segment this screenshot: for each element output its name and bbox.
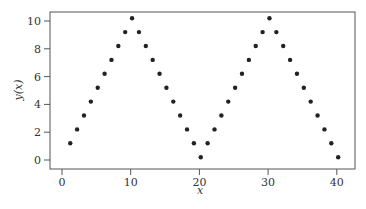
y-axis-ticks: 0246810 [27, 15, 50, 167]
x-tick-label: 0 [59, 176, 66, 189]
data-point [226, 99, 230, 103]
data-point [247, 58, 251, 62]
data-point [281, 44, 285, 48]
data-point [288, 58, 292, 62]
x-tick-label: 10 [124, 176, 138, 189]
data-point [137, 30, 141, 34]
data-point [315, 113, 319, 117]
data-point [212, 127, 216, 131]
scatter-chart: 0246810 010203040 x y(x) [0, 0, 366, 209]
data-point [274, 30, 278, 34]
plot-frame [50, 12, 355, 169]
y-tick-label: 6 [34, 71, 41, 84]
data-point [199, 155, 203, 159]
data-point [295, 72, 299, 76]
data-point [89, 99, 93, 103]
data-point [192, 141, 196, 145]
data-point [150, 58, 154, 62]
data-point [267, 16, 271, 20]
data-point [109, 58, 113, 62]
y-axis-label: y(x) [12, 79, 25, 101]
data-point [240, 72, 244, 76]
data-point [116, 44, 120, 48]
x-tick-label: 40 [330, 176, 344, 189]
data-point [68, 141, 72, 145]
data-point [157, 72, 161, 76]
data-point [329, 141, 333, 145]
x-axis-label: x [197, 184, 204, 197]
data-point [123, 30, 127, 34]
data-point [171, 99, 175, 103]
data-point [254, 44, 258, 48]
y-tick-label: 0 [34, 154, 41, 167]
data-point [96, 86, 100, 90]
y-tick-label: 4 [34, 98, 41, 111]
data-points [68, 16, 340, 159]
y-tick-label: 10 [27, 15, 41, 28]
data-point [308, 99, 312, 103]
data-point [302, 86, 306, 90]
data-point [205, 141, 209, 145]
data-point [130, 16, 134, 20]
data-point [82, 113, 86, 117]
data-point [102, 72, 106, 76]
data-point [233, 86, 237, 90]
data-point [178, 113, 182, 117]
x-tick-label: 30 [261, 176, 275, 189]
data-point [144, 44, 148, 48]
data-point [164, 86, 168, 90]
data-point [336, 155, 340, 159]
data-point [260, 30, 264, 34]
y-tick-label: 2 [34, 126, 41, 139]
data-point [75, 127, 79, 131]
data-point [322, 127, 326, 131]
data-point [219, 113, 223, 117]
y-tick-label: 8 [34, 43, 41, 56]
data-point [185, 127, 189, 131]
